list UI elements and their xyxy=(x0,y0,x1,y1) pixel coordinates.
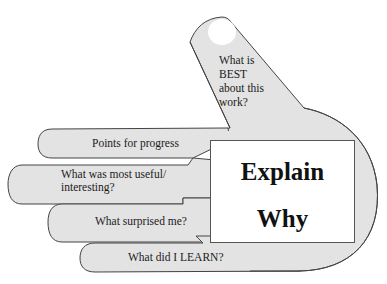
finger-4-label: What did I LEARN? xyxy=(128,251,224,264)
finger-1-label: Points for progress xyxy=(92,137,179,150)
thumb-line-4: work? xyxy=(219,95,264,109)
thumb-line-2: BEST xyxy=(219,67,264,81)
finger-2-label: What was most useful/ interesting? xyxy=(61,168,166,194)
finger-2-line-1: What was most useful/ xyxy=(61,168,166,181)
palm-box-word-explain: Explain xyxy=(211,158,354,186)
finger-3-label: What surprised me? xyxy=(95,215,187,228)
palm-box: Explain Why xyxy=(210,140,355,243)
finger-2-line-2: interesting? xyxy=(61,181,166,194)
thumbnail-highlight xyxy=(208,19,236,45)
thumb-label: What is BEST about this work? xyxy=(219,53,264,109)
thumb-line-3: about this xyxy=(219,81,264,95)
palm-box-word-why: Why xyxy=(211,205,354,233)
thumb-line-1: What is xyxy=(219,53,264,67)
